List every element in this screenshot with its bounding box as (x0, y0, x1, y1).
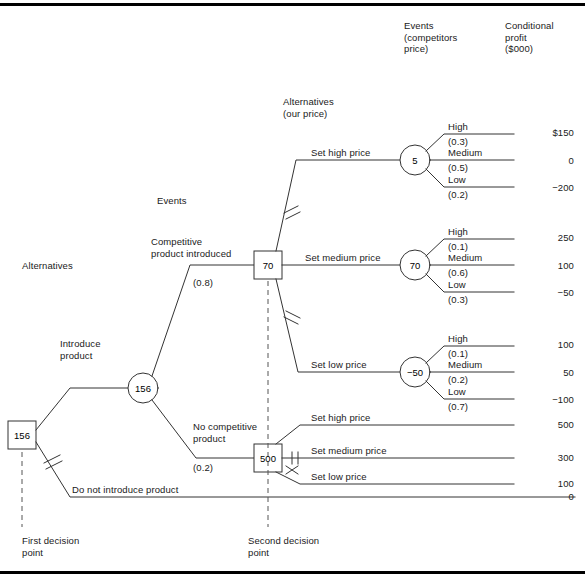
payoff-high-1: $150 (512, 127, 574, 139)
outcome-event-low-3: Low (448, 386, 466, 398)
outcome-event-low-1: High (448, 333, 468, 345)
outcome-event-low-2: Medium (448, 359, 482, 371)
node-introduce-chance: 156 (135, 383, 151, 394)
node-low-price-chance: −50 (407, 367, 423, 378)
outcome-prob-high-1: (0.3) (448, 136, 468, 148)
outcome-prob-high-3: (0.2) (448, 189, 468, 201)
branch-nc-set-low-price: Set low price (311, 471, 367, 483)
branch-set-medium-price: Set medium price (305, 252, 381, 264)
payoff-medium-3: −50 (512, 287, 574, 299)
payoff-do-not-introduce: 0 (512, 491, 574, 503)
header-conditional-profit: Conditional profit ($000) (505, 20, 554, 55)
header-events: Events (157, 195, 187, 207)
payoff-high-3: −200 (512, 182, 574, 194)
payoff-high-2: 0 (512, 155, 574, 167)
outcome-event-medium-1: High (448, 226, 468, 238)
header-alternatives-our-price: Alternatives (our price) (283, 96, 334, 119)
node-second-decision: 70 (263, 260, 274, 271)
payoff-nc-medium: 300 (512, 452, 574, 464)
branch-do-not-introduce-product: Do not introduce product (72, 484, 178, 496)
outcome-prob-medium-2: (0.6) (448, 267, 468, 279)
outcome-prob-high-2: (0.5) (448, 162, 468, 174)
node-no-competitive-decision: 500 (260, 453, 276, 464)
payoff-low-2: 50 (512, 367, 574, 379)
payoff-low-3: −100 (512, 394, 574, 406)
footer-second-decision-point: Second decision point (248, 535, 319, 558)
branch-set-high-price: Set high price (311, 147, 371, 159)
branch-no-competitive-product: No competitive product (193, 421, 257, 444)
outcome-prob-low-1: (0.1) (448, 348, 468, 360)
branch-nc-set-high-price: Set high price (311, 412, 371, 424)
decision-tree-figure: 156 156 70 500 5 70 −50 Events (competit… (0, 0, 585, 578)
outcome-event-high-2: Medium (448, 147, 482, 159)
payoff-nc-high: 500 (512, 419, 574, 431)
footer-first-decision-point: First decision point (22, 535, 79, 558)
prob-competitive-product: (0.8) (193, 277, 213, 289)
outcome-prob-medium-1: (0.1) (448, 241, 468, 253)
outcome-prob-low-3: (0.7) (448, 401, 468, 413)
branch-set-low-price: Set low price (311, 359, 367, 371)
branch-nc-set-medium-price: Set medium price (311, 445, 387, 457)
node-root-decision: 156 (14, 430, 30, 441)
header-events-competitors-price: Events (competitors price) (404, 20, 457, 55)
outcome-event-medium-3: Low (448, 279, 466, 291)
payoff-medium-1: 250 (512, 232, 574, 244)
outcome-event-medium-2: Medium (448, 252, 482, 264)
outcome-event-high-3: Low (448, 174, 466, 186)
payoff-low-1: 100 (512, 339, 574, 351)
branch-introduce-product: Introduce product (60, 338, 101, 361)
outcome-prob-medium-3: (0.3) (448, 294, 468, 306)
payoff-nc-low: 100 (512, 478, 574, 490)
outcome-event-high-1: High (448, 121, 468, 133)
branch-competitive-product-introduced: Competitive product introduced (151, 236, 232, 259)
outcome-prob-low-2: (0.2) (448, 374, 468, 386)
node-medium-price-chance: 70 (410, 260, 421, 271)
payoff-medium-2: 100 (512, 260, 574, 272)
node-high-price-chance: 5 (412, 155, 417, 166)
header-alternatives: Alternatives (22, 260, 73, 272)
prob-no-competitive-product: (0.2) (193, 462, 213, 474)
